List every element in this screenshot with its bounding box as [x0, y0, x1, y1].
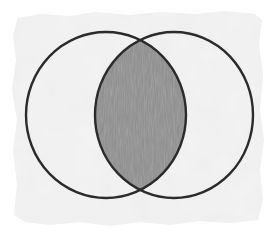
venn-diagram — [0, 0, 275, 234]
